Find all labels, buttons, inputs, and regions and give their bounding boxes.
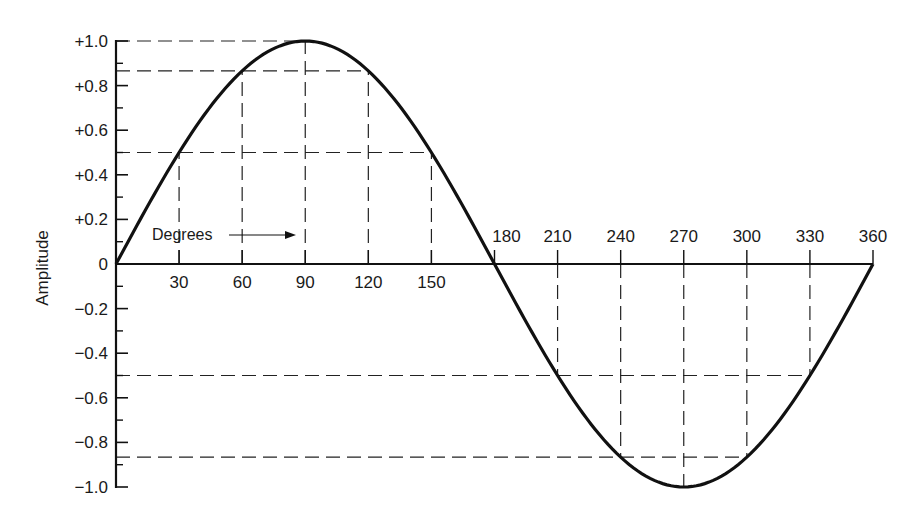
x-tick-label: 270: [670, 227, 698, 246]
sine-wave-chart: +1.0+0.8+0.6+0.4+0.20−0.2−0.4−0.6−0.8−1.…: [0, 0, 920, 524]
x-tick-label: 180: [492, 227, 520, 246]
y-tick-label: −1.0: [74, 478, 108, 497]
y-tick-label: 0: [99, 255, 108, 274]
degrees-annotation: Degrees: [152, 226, 296, 243]
y-axis-title: Amplitude: [33, 230, 52, 306]
y-tick-label: +0.8: [74, 77, 108, 96]
x-tick-label: 330: [796, 227, 824, 246]
y-tick-label: +0.2: [74, 210, 108, 229]
x-tick-label: 360: [859, 227, 887, 246]
x-tick-label: 210: [543, 227, 571, 246]
y-tick-label: −0.2: [74, 300, 108, 319]
y-tick-label: −0.8: [74, 433, 108, 452]
y-tick-label: −0.4: [74, 344, 108, 363]
y-tick-label: +0.6: [74, 121, 108, 140]
x-tick-labels: 306090120150180210240270300330360: [170, 227, 888, 292]
x-tick-label: 30: [170, 273, 189, 292]
x-tick-label: 90: [296, 273, 315, 292]
x-tick-label: 150: [417, 273, 445, 292]
y-tick-label: −0.6: [74, 389, 108, 408]
x-tick-label: 60: [233, 273, 252, 292]
arrow-head-icon: [285, 231, 296, 239]
y-tick-label: +1.0: [74, 32, 108, 51]
x-tick-label: 120: [354, 273, 382, 292]
y-tick-label: +0.4: [74, 166, 108, 185]
degrees-label: Degrees: [152, 226, 212, 243]
x-tick-label: 240: [606, 227, 634, 246]
x-tick-label: 300: [733, 227, 761, 246]
y-tick-labels: +1.0+0.8+0.6+0.4+0.20−0.2−0.4−0.6−0.8−1.…: [74, 32, 108, 497]
